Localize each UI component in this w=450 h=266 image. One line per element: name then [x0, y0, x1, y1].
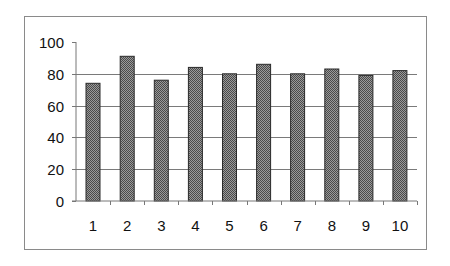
bar-8	[325, 69, 339, 201]
y-tick-label: 0	[56, 193, 64, 210]
bar-4	[188, 67, 202, 201]
bar-2	[120, 56, 134, 201]
y-tick-label: 20	[47, 161, 64, 178]
x-tick-label: 10	[392, 217, 409, 234]
bar-chart: 020406080100 12345678910	[0, 0, 450, 266]
x-tick-label: 1	[89, 217, 97, 234]
x-tick-label: 2	[123, 217, 131, 234]
x-tick-label: 6	[259, 217, 267, 234]
x-tick-label: 3	[157, 217, 165, 234]
x-tick-label: 8	[328, 217, 336, 234]
x-tick-label: 9	[362, 217, 370, 234]
x-tick-label: 4	[191, 217, 199, 234]
bar-5	[223, 74, 237, 201]
y-tick-label: 100	[39, 34, 64, 51]
x-tick-label: 5	[225, 217, 233, 234]
bar-9	[359, 75, 373, 201]
bar-6	[257, 64, 271, 201]
bars	[86, 56, 407, 201]
bar-3	[154, 80, 168, 201]
y-tick-label: 40	[47, 129, 64, 146]
x-tick-label: 7	[293, 217, 301, 234]
bar-7	[291, 74, 305, 201]
y-tick-labels: 020406080100	[39, 34, 64, 210]
bar-1	[86, 83, 100, 201]
y-tick-label: 60	[47, 98, 64, 115]
x-tick-labels: 12345678910	[89, 217, 408, 234]
y-tick-label: 80	[47, 66, 64, 83]
bar-10	[393, 71, 407, 201]
